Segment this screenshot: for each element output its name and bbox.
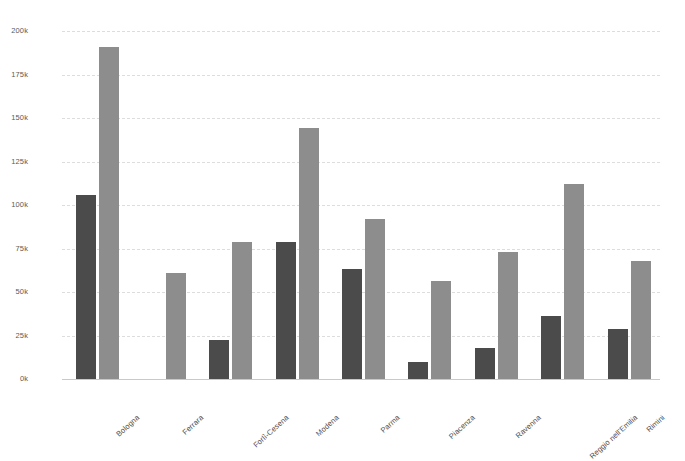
y-axis-tick-label: 150k [0, 113, 28, 122]
x-axis-tick-label: Modena [314, 413, 341, 438]
bar [276, 242, 296, 379]
bar-group [276, 31, 322, 379]
bar-group [342, 31, 388, 379]
y-axis-tick-label: 175k [0, 70, 28, 79]
bar-group [408, 31, 454, 379]
y-axis-tick-label: 125k [0, 157, 28, 166]
x-axis-tick-label: Piacenza [448, 413, 478, 441]
axis-baseline [62, 379, 660, 380]
bar [166, 273, 186, 379]
bar [608, 329, 628, 379]
bar [631, 261, 651, 379]
x-axis-tick-label: Rimini [644, 413, 666, 434]
bar-group [475, 31, 521, 379]
x-axis-tick-label: Ravenna [514, 413, 543, 440]
bar [365, 219, 385, 379]
bar [76, 195, 96, 379]
bar-group [608, 31, 654, 379]
bar [299, 128, 319, 379]
x-axis-tick-label: Parma [379, 413, 402, 435]
bar [232, 242, 252, 379]
x-axis-tick-label: Bologna [114, 413, 141, 439]
y-axis-tick-label: 100k [0, 200, 28, 209]
x-axis-tick-label: Forlì-Cesena [252, 413, 291, 450]
bar [498, 252, 518, 379]
x-axis-tick-label: Ferrara [180, 413, 205, 437]
bar-group [209, 31, 255, 379]
y-axis-tick-label: 200k [0, 26, 28, 35]
bar [541, 316, 561, 380]
y-axis-tick-label: 25k [0, 331, 28, 340]
plot-area: 0k25k50k75k100k125k150k175k200kBolognaFe… [62, 31, 660, 379]
bar [564, 184, 584, 379]
bar-group [541, 31, 587, 379]
bar [475, 348, 495, 379]
y-axis-tick-label: 50k [0, 287, 28, 296]
x-axis-tick-label: Reggio nell'Emilia [588, 413, 639, 461]
bar-group [76, 31, 122, 379]
y-axis-tick-label: 0k [0, 374, 28, 383]
bar [342, 269, 362, 379]
bar [99, 47, 119, 379]
bar [209, 340, 229, 379]
y-axis-tick-label: 75k [0, 244, 28, 253]
bar [408, 362, 428, 379]
bar-group [143, 31, 189, 379]
bar [431, 281, 451, 379]
